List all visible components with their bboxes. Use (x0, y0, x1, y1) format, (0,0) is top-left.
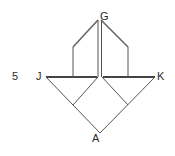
label-j: J (36, 71, 42, 82)
line-ka (100, 77, 155, 133)
inner-diagonal-left (73, 77, 98, 105)
label-g: G (100, 11, 109, 22)
geometry-diagram (0, 0, 175, 156)
label-a: A (92, 133, 99, 144)
figure-number: 5 (12, 71, 18, 82)
label-k: K (157, 71, 164, 82)
left-roof-slope (73, 20, 98, 47)
right-roof-slope (101, 20, 128, 47)
line-ja (46, 77, 100, 133)
inner-diagonal-right (102, 77, 128, 105)
